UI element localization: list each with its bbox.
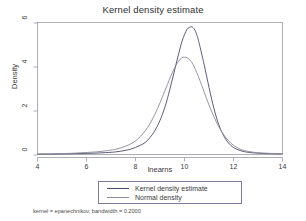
x-axis-title: lnearns xyxy=(37,165,283,174)
plot-frame xyxy=(38,23,283,155)
legend-item-normal-density[interactable]: Normal density xyxy=(99,193,241,202)
y-tick-label-0: 0 xyxy=(21,148,28,164)
legend-swatch-kernel-density xyxy=(107,188,129,189)
y-tick-marks xyxy=(34,23,38,155)
x-tick-label-12: 12 xyxy=(224,163,244,170)
legend-label-kernel-density: Kernel density estimate xyxy=(135,185,208,192)
y-tick-label-4: 4 xyxy=(21,60,28,76)
x-tick-label-6: 6 xyxy=(77,163,97,170)
x-axis-line xyxy=(38,158,283,162)
legend: Kernel density estimate Normal density xyxy=(98,181,242,204)
legend-item-kernel-density[interactable]: Kernel density estimate xyxy=(99,184,241,193)
chart-note: kernel = epanechnikov, bandwidth = 0.200… xyxy=(33,208,141,214)
y-axis-title: Density xyxy=(10,47,19,107)
y-tick-label-6: 6 xyxy=(21,16,28,32)
legend-swatch-normal-density xyxy=(107,197,129,198)
kernel-density-figure: Kernel density estimate Density lnearns … xyxy=(0,0,306,221)
legend-label-normal-density: Normal density xyxy=(135,194,182,201)
x-tick-label-4: 4 xyxy=(28,163,48,170)
y-tick-label-2: 2 xyxy=(21,104,28,120)
x-tick-label-10: 10 xyxy=(175,163,195,170)
x-tick-label-14: 14 xyxy=(273,163,293,170)
x-tick-label-8: 8 xyxy=(126,163,146,170)
